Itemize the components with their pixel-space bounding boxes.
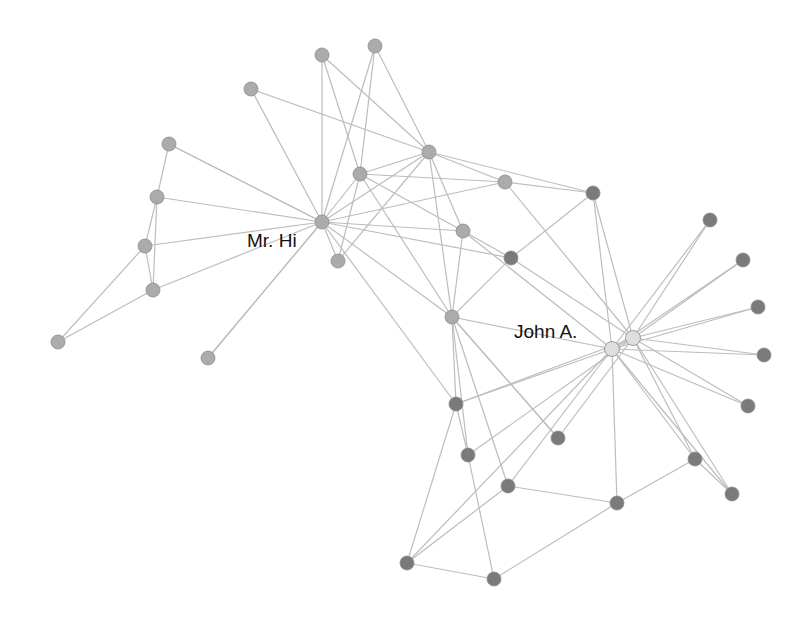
edge: [508, 349, 612, 486]
edge: [407, 486, 508, 563]
edge: [612, 349, 748, 406]
edge: [429, 152, 452, 317]
graph-node[interactable]: [461, 448, 475, 462]
edge: [322, 46, 375, 222]
graph-node[interactable]: [146, 283, 160, 297]
graph-node[interactable]: [605, 342, 620, 357]
edge: [612, 349, 617, 503]
graph-node[interactable]: [703, 213, 717, 227]
graph-node[interactable]: [445, 310, 459, 324]
graph-node[interactable]: [498, 175, 512, 189]
node-label-john-a: John A.: [514, 321, 577, 343]
edge: [251, 89, 322, 222]
graph-node[interactable]: [353, 167, 367, 181]
edge: [360, 174, 452, 317]
edge: [322, 222, 456, 404]
graph-node[interactable]: [757, 348, 771, 362]
edge: [360, 152, 429, 174]
edge: [429, 152, 593, 193]
graph-node[interactable]: [504, 251, 518, 265]
graph-node[interactable]: [150, 190, 164, 204]
edge: [494, 503, 617, 579]
edge: [407, 563, 494, 579]
graph-node[interactable]: [736, 253, 750, 267]
graph-node[interactable]: [487, 572, 501, 586]
graph-node[interactable]: [51, 335, 65, 349]
edge: [558, 338, 633, 438]
graph-node[interactable]: [610, 496, 624, 510]
graph-node[interactable]: [315, 48, 329, 62]
edge: [633, 338, 732, 494]
graph-node[interactable]: [586, 186, 600, 200]
node-layer: [51, 39, 771, 586]
edge: [360, 46, 375, 174]
graph-node[interactable]: [551, 431, 565, 445]
graph-node[interactable]: [751, 300, 765, 314]
edge-layer: [58, 46, 764, 579]
edge: [633, 220, 710, 338]
graph-node[interactable]: [331, 254, 345, 268]
graph-node[interactable]: [368, 39, 382, 53]
graph-node[interactable]: [501, 479, 515, 493]
graph-node[interactable]: [315, 215, 329, 229]
edge: [58, 246, 145, 342]
graph-canvas: [0, 0, 811, 622]
edge: [452, 317, 468, 455]
graph-node[interactable]: [138, 239, 152, 253]
edge: [511, 193, 593, 258]
graph-node[interactable]: [201, 351, 215, 365]
node-label-mr-hi: Mr. Hi: [247, 230, 297, 252]
graph-node[interactable]: [449, 397, 463, 411]
graph-node[interactable]: [162, 137, 176, 151]
edge: [468, 455, 494, 579]
edge: [612, 220, 710, 349]
edge: [322, 222, 511, 258]
edge: [322, 222, 452, 317]
graph-node[interactable]: [244, 82, 258, 96]
network-graph: Mr. Hi John A.: [0, 0, 811, 622]
edge: [407, 404, 456, 563]
edge: [456, 404, 468, 455]
edge: [505, 182, 593, 193]
edge: [360, 174, 463, 231]
edge: [322, 152, 429, 222]
edge: [58, 290, 153, 342]
graph-node[interactable]: [626, 331, 641, 346]
graph-node[interactable]: [725, 487, 739, 501]
graph-node[interactable]: [456, 224, 470, 238]
edge: [157, 144, 169, 197]
edge: [153, 222, 322, 290]
graph-node[interactable]: [741, 399, 755, 413]
edge: [508, 486, 617, 503]
edge: [452, 231, 463, 317]
graph-node[interactable]: [400, 556, 414, 570]
edge: [612, 349, 695, 459]
graph-node[interactable]: [688, 452, 702, 466]
edge: [452, 258, 511, 317]
edge: [593, 193, 612, 349]
edge: [407, 349, 612, 563]
edge: [617, 459, 695, 503]
graph-node[interactable]: [422, 145, 436, 159]
